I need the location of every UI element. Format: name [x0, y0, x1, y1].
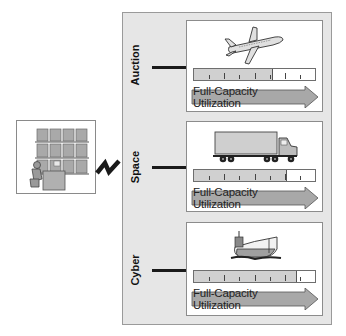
meter-tick — [239, 277, 240, 281]
row-label-cyber: Cyber — [124, 240, 146, 300]
meter-tick — [270, 277, 271, 281]
utilization-meter-space — [193, 169, 316, 182]
ship-icon — [223, 227, 287, 267]
zigzag-link-icon — [95, 157, 123, 179]
card-cyber: Full-Capacity Utilization — [186, 222, 323, 316]
row-label-auction: Auction — [124, 35, 146, 95]
meter-tick — [300, 277, 301, 281]
meter-fill-space — [194, 170, 287, 181]
meter-tick — [285, 275, 286, 281]
utilization-meter-cyber — [193, 270, 316, 283]
meter-tick — [255, 73, 256, 79]
arrow-label-auction: Full-Capacity Utilization — [193, 86, 305, 108]
meter-tick — [209, 75, 210, 79]
meter-tick — [224, 73, 225, 79]
connector-auction — [152, 66, 186, 69]
meter-tick — [255, 174, 256, 180]
meter-tick — [224, 275, 225, 281]
meter-tick — [270, 75, 271, 79]
meter-tick — [209, 176, 210, 180]
truck-icon — [207, 126, 303, 166]
meter-tick — [239, 75, 240, 79]
row-label-space: Space — [124, 137, 146, 197]
connector-space — [152, 166, 186, 169]
card-space: Full-Capacity Utilization — [186, 121, 323, 212]
arrow-label-cyber: Full-Capacity Utilization — [193, 288, 305, 310]
meter-tick — [209, 277, 210, 281]
meter-tick — [270, 176, 271, 180]
meter-tick — [300, 75, 301, 79]
airplane-icon — [223, 25, 287, 65]
meter-tick — [285, 174, 286, 180]
meter-tick — [224, 174, 225, 180]
card-auction: Full-Capacity Utilization — [186, 20, 323, 112]
meter-tick — [300, 176, 301, 180]
meter-tick — [239, 176, 240, 180]
connector-cyber — [152, 269, 186, 272]
meter-tick — [255, 275, 256, 281]
utilization-meter-auction — [193, 68, 316, 81]
warehouse-rack-icon — [17, 121, 95, 193]
arrow-label-space: Full-Capacity Utilization — [193, 187, 305, 209]
meter-tick — [285, 73, 286, 79]
meter-fill-auction — [194, 69, 273, 80]
warehouse-worker-illustration — [16, 120, 96, 194]
